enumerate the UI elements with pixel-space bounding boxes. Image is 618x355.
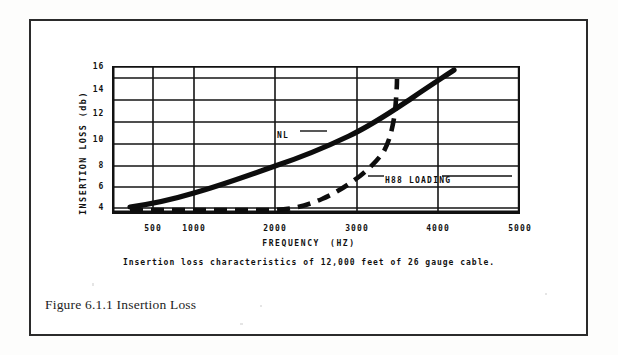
- insertion-loss-chart: INSERTION LOSS (db) 4 6 8 10 12 14 16: [0, 0, 618, 290]
- figure-caption: Figure 6.1.1 Insertion Loss: [45, 297, 196, 313]
- x-tick-label-3000: 3000: [334, 224, 380, 233]
- scanned-page: INSERTION LOSS (db) 4 6 8 10 12 14 16: [0, 0, 618, 355]
- scan-speckle: [545, 293, 547, 295]
- x-tick-label-2000: 2000: [252, 224, 298, 233]
- horizontal-gridlines: [112, 66, 520, 214]
- series-label-nl: NL: [277, 131, 289, 140]
- y-tick-label-8: 8: [78, 161, 104, 170]
- y-tick-label-16: 16: [78, 62, 104, 71]
- chart-subcaption: Insertion loss characteristics of 12,000…: [0, 258, 618, 267]
- x-tick-label-4000: 4000: [415, 224, 461, 233]
- y-tick-label-6: 6: [78, 182, 104, 191]
- series-label-h88: H88 LOADING: [385, 176, 451, 185]
- y-tick-label-4: 4: [78, 203, 104, 212]
- scan-speckle: [240, 323, 243, 325]
- plot-svg: [112, 66, 520, 214]
- x-axis-title-text: FREQUENCY: [262, 239, 320, 248]
- scan-speckle: [260, 305, 262, 307]
- x-axis-unit: (HZ): [330, 239, 356, 248]
- y-tick-label-10: 10: [78, 135, 104, 144]
- scan-speckle: [92, 283, 94, 286]
- y-tick-label-14: 14: [78, 85, 104, 94]
- y-tick-label-12: 12: [78, 109, 104, 118]
- x-tick-label-500: 500: [130, 224, 176, 233]
- plot-area: [112, 66, 520, 214]
- plot-frame: [112, 66, 520, 214]
- x-tick-label-5000: 5000: [497, 224, 543, 233]
- x-axis-title: FREQUENCY(HZ): [0, 239, 618, 248]
- x-tick-label-1000: 1000: [171, 224, 217, 233]
